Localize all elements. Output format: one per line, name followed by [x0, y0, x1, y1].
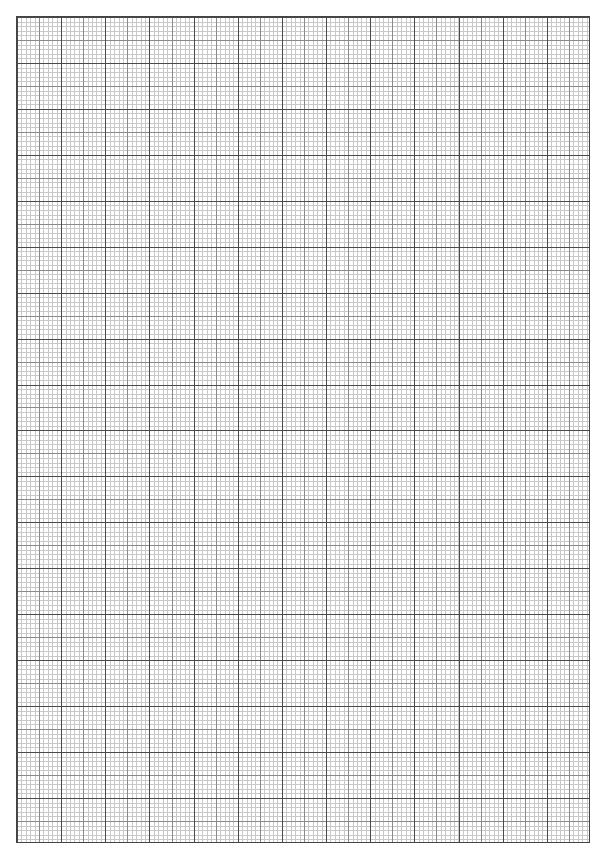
graph-paper-grid — [16, 16, 590, 843]
